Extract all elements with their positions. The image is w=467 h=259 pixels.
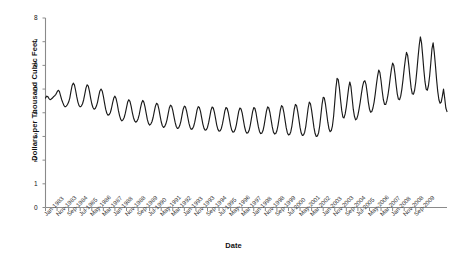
axis-lines: [46, 18, 448, 208]
line-chart-plot: [0, 0, 467, 259]
price-series-line: [46, 37, 448, 136]
y-axis-tick-label: 0: [24, 204, 38, 211]
x-axis-title: Date: [0, 241, 467, 250]
chart-container: 012345678 Jan-1983Nov-1983Sep-1984Jul-19…: [0, 0, 467, 259]
y-axis-title: Dollars per Thousand Cubic Feet: [30, 21, 39, 181]
y-axis-tick-label: 1: [24, 180, 38, 187]
